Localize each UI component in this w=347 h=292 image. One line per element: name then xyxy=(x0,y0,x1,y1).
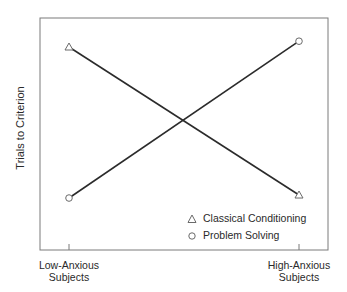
series-line-classical-conditioning xyxy=(69,47,299,195)
legend-item-classical-conditioning: Classical Conditioning xyxy=(187,210,306,227)
legend-label: Classical Conditioning xyxy=(203,210,306,227)
legend-label: Problem Solving xyxy=(203,227,279,244)
x-tick-label-high-line1: High-Anxious xyxy=(254,259,344,271)
x-tick-label-high: High-Anxious Subjects xyxy=(254,259,344,283)
legend-item-problem-solving: Problem Solving xyxy=(187,227,306,244)
triangle-marker-icon xyxy=(65,43,73,50)
x-tick-label-low-line1: Low-Anxious xyxy=(24,259,114,271)
series-line-problem-solving xyxy=(69,41,299,198)
x-tick-label-low-line2: Subjects xyxy=(24,271,114,283)
circle-marker-icon xyxy=(66,195,73,202)
triangle-marker-icon xyxy=(295,191,303,198)
circle-marker-icon xyxy=(296,38,303,45)
chart-plot xyxy=(0,0,347,292)
legend: Classical Conditioning Problem Solving xyxy=(187,210,306,244)
x-tick-label-low: Low-Anxious Subjects xyxy=(24,259,114,283)
y-axis-label: Trials to Criterion xyxy=(14,63,26,193)
triangle-marker-icon xyxy=(187,214,197,224)
series-layer xyxy=(65,38,303,201)
x-tick-label-high-line2: Subjects xyxy=(254,271,344,283)
circle-marker-icon xyxy=(187,231,197,241)
